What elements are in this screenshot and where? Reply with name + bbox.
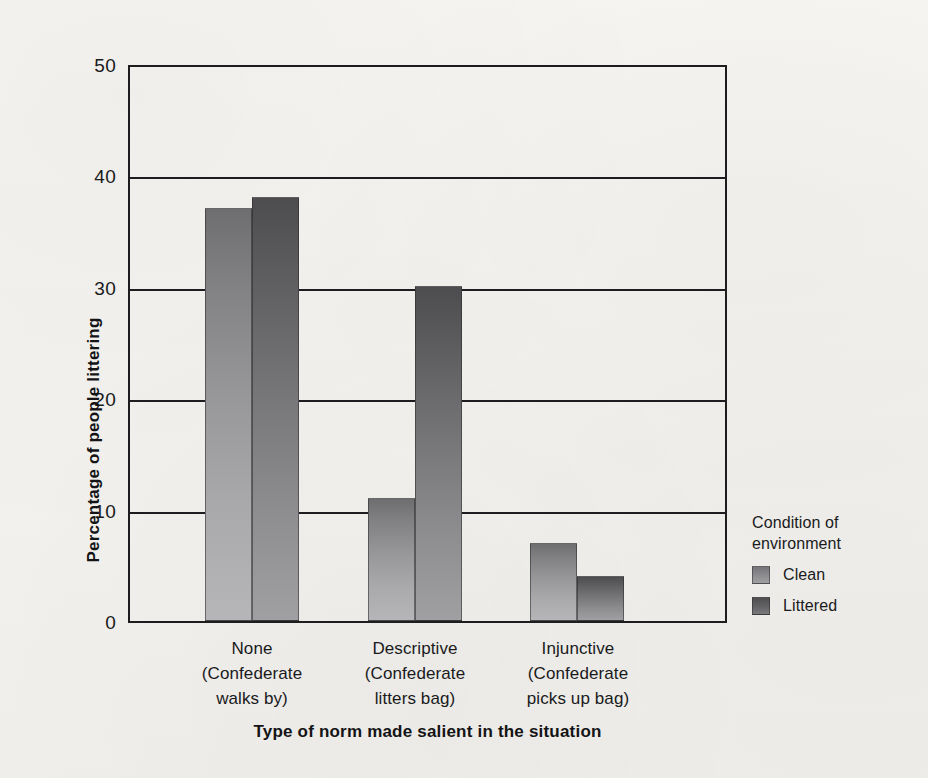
x-group-injunctive-line1: Injunctive xyxy=(486,636,670,661)
bar-injunctive-littered[interactable] xyxy=(577,576,624,621)
x-group-descriptive-line3: litters bag) xyxy=(323,686,507,711)
bar-descriptive-littered[interactable] xyxy=(415,286,462,621)
legend-item-littered[interactable]: Littered xyxy=(752,597,922,615)
x-group-none-line3: walks by) xyxy=(160,686,344,711)
legend-title-line1: Condition of xyxy=(752,512,922,533)
legend-swatch-clean-icon xyxy=(752,566,770,584)
bar-none-littered[interactable] xyxy=(252,197,299,621)
plot-area xyxy=(128,65,727,623)
bar-none-clean[interactable] xyxy=(205,208,252,621)
y-axis-title: Percentage of people littering xyxy=(84,230,104,650)
bar-chart-figure: 50 40 30 20 10 0 Percentage of people li… xyxy=(0,0,928,778)
x-group-label-injunctive: Injunctive (Confederate picks up bag) xyxy=(486,636,670,711)
legend-label-littered: Littered xyxy=(783,597,837,615)
x-axis-title: Type of norm made salient in the situati… xyxy=(128,722,727,742)
legend-title-line2: environment xyxy=(752,533,922,554)
y-tick-label-50: 50 xyxy=(70,56,116,75)
bar-descriptive-clean[interactable] xyxy=(368,498,415,621)
y-tick-label-40: 40 xyxy=(70,167,116,186)
x-group-label-none: None (Confederate walks by) xyxy=(160,636,344,711)
x-group-injunctive-line2: (Confederate xyxy=(486,661,670,686)
legend-title: Condition of environment xyxy=(752,512,922,554)
x-group-descriptive-line2: (Confederate xyxy=(323,661,507,686)
legend-item-clean[interactable]: Clean xyxy=(752,566,922,584)
legend-label-clean: Clean xyxy=(783,566,825,584)
legend-swatch-littered-icon xyxy=(752,597,770,615)
bar-injunctive-clean[interactable] xyxy=(530,543,577,621)
x-group-none-line1: None xyxy=(160,636,344,661)
x-group-label-descriptive: Descriptive (Confederate litters bag) xyxy=(323,636,507,711)
x-group-none-line2: (Confederate xyxy=(160,661,344,686)
x-group-descriptive-line1: Descriptive xyxy=(323,636,507,661)
y-axis-title-container: Percentage of people littering xyxy=(44,130,70,510)
gridline-40 xyxy=(130,177,725,179)
x-group-injunctive-line3: picks up bag) xyxy=(486,686,670,711)
chart-legend: Condition of environment Clean Littered xyxy=(752,512,922,628)
